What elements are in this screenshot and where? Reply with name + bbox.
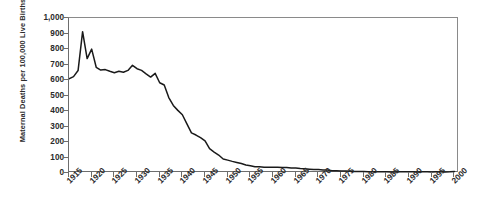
- x-tick-mark: [159, 172, 160, 177]
- y-tick-label: 600: [22, 75, 64, 84]
- y-tick-label: 200: [22, 137, 64, 146]
- y-tick-mark: [63, 126, 68, 127]
- y-tick-label: 900: [22, 28, 64, 37]
- x-tick-mark: [317, 172, 318, 177]
- y-tick-label: 100: [22, 152, 64, 161]
- x-tick-mark: [295, 172, 296, 177]
- x-tick-mark: [453, 172, 454, 177]
- maternal-mortality-line-chart: Maternal Deaths per 100,000 Live Births …: [0, 0, 479, 213]
- x-tick-mark: [385, 172, 386, 177]
- x-tick-mark: [227, 172, 228, 177]
- y-tick-mark: [63, 17, 68, 18]
- data-series-line: [69, 18, 459, 173]
- y-tick-mark: [63, 141, 68, 142]
- y-tick-label: 800: [22, 44, 64, 53]
- y-tick-label: 500: [22, 90, 64, 99]
- y-tick-label: 1,000: [22, 13, 64, 22]
- plot-area: [68, 17, 458, 172]
- y-tick-label: 300: [22, 121, 64, 130]
- x-tick-mark: [91, 172, 92, 177]
- x-tick-mark: [340, 172, 341, 177]
- y-tick-label: 0: [22, 168, 64, 177]
- series-polyline: [69, 32, 454, 172]
- y-axis-tick-labels: 01002003004005006007008009001,000: [22, 17, 64, 172]
- y-tick-mark: [63, 157, 68, 158]
- y-tick-label: 400: [22, 106, 64, 115]
- y-tick-mark: [63, 79, 68, 80]
- x-tick-mark: [431, 172, 432, 177]
- y-tick-mark: [63, 48, 68, 49]
- x-tick-mark: [363, 172, 364, 177]
- x-tick-mark: [68, 172, 69, 177]
- x-tick-mark: [272, 172, 273, 177]
- x-tick-mark: [408, 172, 409, 177]
- y-tick-mark: [63, 110, 68, 111]
- x-tick-mark: [113, 172, 114, 177]
- y-tick-mark: [63, 64, 68, 65]
- y-tick-label: 700: [22, 59, 64, 68]
- y-tick-mark: [63, 95, 68, 96]
- x-tick-mark: [249, 172, 250, 177]
- x-tick-mark: [181, 172, 182, 177]
- x-tick-mark: [136, 172, 137, 177]
- x-tick-mark: [204, 172, 205, 177]
- y-tick-mark: [63, 33, 68, 34]
